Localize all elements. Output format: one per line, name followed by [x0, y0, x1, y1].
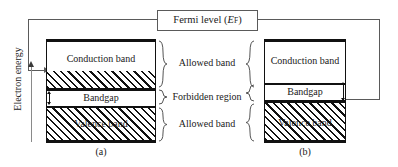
diagram-a-conduction-label: Conduction band [46, 53, 156, 64]
diagram-a-bandgap-label: Bandgap [46, 92, 156, 103]
diagram-b-valence-label-text: Valence band [276, 117, 334, 128]
diagram-b-valence-label: Valence band [264, 117, 346, 128]
fermi-level-label-text: Fermi level ( [173, 15, 227, 26]
diagram-a-valence-bottom-edge [46, 140, 156, 143]
diagram-b-bandgap-arrow-down-icon [341, 98, 345, 101]
band-diagram-a: Conduction band Bandgap Valence band [46, 39, 156, 143]
diagram-a-conduction-label-text: Conduction band [65, 53, 138, 64]
fermi-connector-left-horizontal [28, 19, 158, 20]
brace-left-allowed-upper [158, 40, 167, 88]
fermi-level-box: Fermi level (EF) [157, 10, 258, 31]
brace-left-allowed-lower [158, 107, 167, 142]
caption-a: (a) [46, 146, 156, 157]
fermi-connector-right-vertical [379, 19, 380, 100]
fermi-connector-right-stub [345, 99, 380, 100]
band-structure-figure: Fermi level (EF) Electron energy Conduct… [0, 0, 398, 167]
diagram-b-bandgap-arrow-up-icon [341, 82, 345, 85]
diagram-b-bandgap-label: Bandgap [264, 86, 346, 97]
caption-b: (b) [264, 146, 346, 157]
diagram-a-valence-label: Valence band [46, 118, 156, 129]
diagram-b-conduction-label: Conduction band [264, 55, 346, 66]
diagram-b-valence-bottom-edge [264, 140, 346, 143]
diagram-a-valence-label-text: Valence band [72, 118, 130, 129]
band-diagram-b: Conduction band Bandgap Valence band [264, 39, 346, 143]
energy-axis-label: Electron energy [12, 29, 26, 129]
diagram-b-bandgap-label-text: Bandgap [284, 86, 326, 97]
center-label-forbidden-region: Forbidden region [164, 91, 250, 102]
center-label-allowed-band-lower: Allowed band [168, 118, 246, 129]
energy-axis-line [31, 66, 32, 142]
diagram-a-conduction-filled-region [46, 71, 156, 88]
fermi-connector-right-horizontal [255, 19, 380, 20]
fermi-level-label-close: ) [238, 15, 242, 26]
center-label-allowed-band-upper: Allowed band [168, 57, 246, 68]
diagram-b-conduction-label-text: Conduction band [269, 55, 342, 66]
brace-right-allowed-upper [246, 40, 255, 88]
diagram-a-bandgap-label-text: Bandgap [80, 92, 122, 103]
brace-right-allowed-lower [246, 103, 255, 142]
energy-axis-arrow-icon [28, 61, 34, 67]
